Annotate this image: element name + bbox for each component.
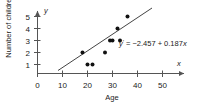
y-tick-label-1: 1 [26,61,31,70]
y-axis-variable-label: y [43,6,49,15]
scatter-plot-figure: Number of children 1 2 3 4 5 [0,0,208,108]
y-tick-label-2: 2 [26,49,31,58]
x-tick-label-30: 30 [108,81,117,90]
x-axis-tick-labels: 0 10 20 30 40 50 [35,81,167,90]
x-tick-label-50: 50 [158,81,167,90]
data-point [86,63,90,67]
plot-canvas: 1 2 3 4 5 0 10 20 30 40 50 y x Age [0,0,208,108]
x-axis-variable-label: x [176,59,181,68]
x-axis-title: Age [105,93,118,102]
data-point [126,15,130,19]
x-tick-label-40: 40 [133,81,142,90]
data-point [81,51,85,55]
data-point [111,39,115,43]
y-tick-label-3: 3 [26,37,31,46]
equation-body-text: = −2.457 + 0.187 [124,39,183,48]
y-axis-tick-labels: 1 2 3 4 5 [26,13,31,70]
data-point [103,51,107,55]
data-point [116,27,120,31]
y-tick-label-4: 4 [26,25,31,34]
equation-x-symbol: x [182,39,187,48]
x-tick-label-20: 20 [83,81,92,90]
regression-equation-annotation: y′ = −2.457 + 0.187x [118,39,187,48]
x-tick-label-10: 10 [58,81,67,90]
x-tick-label-0: 0 [35,81,40,90]
y-tick-label-5: 5 [26,13,31,22]
data-point [91,63,95,67]
